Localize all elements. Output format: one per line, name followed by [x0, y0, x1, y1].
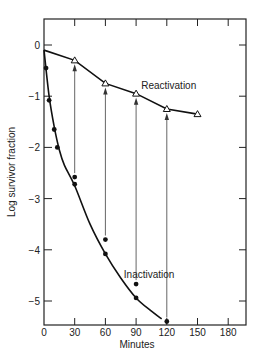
x-tick-label: 0	[41, 327, 47, 338]
filled-circle-marker-icon	[134, 296, 139, 301]
inactivation-label: Inactivation	[124, 269, 175, 280]
filled-circle-marker-icon	[55, 145, 60, 150]
filled-circle-marker-icon	[103, 251, 108, 256]
axes: 03060901201501800−1−2−3−4−5	[29, 19, 246, 338]
arrow-head-icon	[73, 64, 77, 71]
arrow-head-icon	[165, 113, 169, 120]
y-tick-label: 0	[34, 40, 40, 51]
y-tick-label: −4	[29, 245, 41, 256]
arrow-head-icon	[134, 98, 138, 105]
arrow-head-icon	[103, 87, 107, 94]
x-tick-label: 90	[131, 327, 143, 338]
labels: Minutes Log survivor fraction Reactivati…	[6, 80, 196, 350]
x-axis-title: Minutes	[119, 339, 154, 350]
y-tick-label: −5	[29, 296, 41, 307]
x-tick-label: 30	[69, 327, 81, 338]
filled-circle-marker-icon	[44, 66, 49, 71]
y-tick-label: −3	[29, 194, 41, 205]
y-axis-title: Log survivor fraction	[6, 127, 17, 217]
x-tick-label: 150	[189, 327, 206, 338]
filled-circle-marker-icon	[72, 175, 77, 180]
survivor-fraction-chart: 03060901201501800−1−2−3−4−5 Minutes Log …	[0, 0, 263, 363]
x-tick-label: 120	[158, 327, 175, 338]
x-tick-label: 60	[100, 327, 112, 338]
y-tick-label: −2	[29, 142, 41, 153]
filled-circle-marker-icon	[134, 282, 139, 287]
x-tick-label: 180	[220, 327, 237, 338]
y-tick-label: −1	[29, 91, 41, 102]
filled-circle-marker-icon	[103, 237, 108, 242]
filled-circle-marker-icon	[72, 182, 77, 187]
filled-circle-marker-icon	[47, 98, 52, 103]
filled-circle-marker-icon	[52, 127, 57, 132]
reactivation-label: Reactivation	[141, 80, 196, 91]
filled-circle-marker-icon	[164, 319, 169, 324]
data-markers	[44, 57, 201, 324]
